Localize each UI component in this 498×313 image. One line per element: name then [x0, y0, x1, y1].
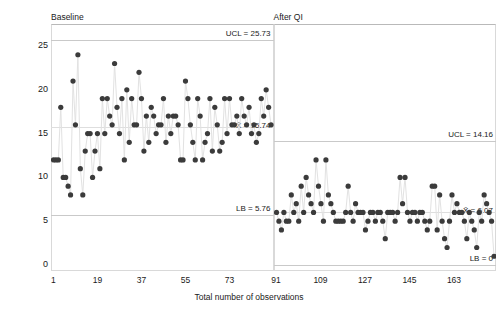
data-point	[491, 254, 496, 259]
data-point	[75, 52, 80, 57]
y-axis-tick: 0	[22, 259, 48, 269]
x-axis-ticks-after_qi: 91109127145163	[274, 275, 497, 289]
x-axis-tick: 109	[313, 275, 327, 285]
data-point	[306, 192, 311, 197]
data-point	[134, 122, 139, 127]
data-point	[112, 61, 117, 66]
data-point	[437, 192, 442, 197]
data-point	[190, 140, 195, 145]
data-point	[404, 210, 409, 215]
data-point	[488, 219, 493, 224]
data-point	[188, 122, 193, 127]
data-point	[441, 236, 446, 241]
data-point	[469, 219, 474, 224]
data-point	[205, 131, 210, 136]
data-point	[97, 166, 102, 171]
data-point	[481, 192, 486, 197]
data-point	[444, 245, 449, 250]
control-chart: Scanner idle time by phase 0510152025 To…	[0, 0, 498, 313]
data-point	[439, 219, 444, 224]
data-point	[486, 210, 491, 215]
data-point	[234, 113, 239, 118]
data-point	[446, 219, 451, 224]
data-point	[227, 96, 232, 101]
data-point	[88, 131, 93, 136]
data-point	[318, 201, 323, 206]
data-point	[298, 184, 303, 189]
x-axis-tick: 55	[181, 275, 190, 285]
data-point	[102, 131, 107, 136]
data-point	[246, 105, 251, 110]
data-point	[127, 140, 132, 145]
data-point	[276, 219, 281, 224]
data-point	[281, 210, 286, 215]
data-point	[66, 184, 71, 189]
data-point	[402, 175, 407, 180]
data-point	[107, 113, 112, 118]
data-point	[365, 219, 370, 224]
data-point	[83, 149, 88, 154]
data-point	[193, 157, 198, 162]
x-axis-ticks-baseline: 119375573	[51, 275, 274, 289]
data-point	[288, 192, 293, 197]
x-axis-tick: 163	[447, 275, 461, 285]
data-point	[476, 210, 481, 215]
data-point	[424, 227, 429, 232]
data-point	[466, 210, 471, 215]
data-point	[158, 122, 163, 127]
data-point	[451, 210, 456, 215]
y-axis-label: Scanner idle time by phase	[0, 0, 12, 28]
data-point	[122, 157, 127, 162]
data-point	[173, 113, 178, 118]
data-point	[166, 113, 171, 118]
x-axis-tick: 91	[271, 275, 280, 285]
data-point	[397, 175, 402, 180]
data-point	[139, 96, 144, 101]
data-point	[370, 210, 375, 215]
data-point	[407, 219, 412, 224]
data-point	[328, 201, 333, 206]
data-point	[224, 131, 229, 136]
panel-strip-label-after_qi: After QI	[274, 12, 303, 22]
panel-strip-label-baseline: Baseline	[51, 12, 84, 22]
data-point	[176, 122, 181, 127]
data-point	[362, 227, 367, 232]
data-point	[352, 201, 357, 206]
data-point	[259, 96, 264, 101]
data-point	[348, 210, 353, 215]
data-point	[195, 96, 200, 101]
data-point	[291, 210, 296, 215]
data-point	[464, 236, 469, 241]
x-axis-tick: 1	[51, 275, 56, 285]
data-point	[414, 219, 419, 224]
x-axis-label: Total number of observations	[0, 292, 498, 302]
data-point	[254, 140, 259, 145]
data-point	[308, 201, 313, 206]
data-point	[390, 210, 395, 215]
data-point	[117, 131, 122, 136]
data-point	[73, 122, 78, 127]
x-axis-tick: 127	[358, 275, 372, 285]
data-point	[382, 236, 387, 241]
data-point	[207, 96, 212, 101]
data-point	[422, 219, 427, 224]
y-axis-tick: 25	[22, 40, 48, 50]
data-point	[251, 122, 256, 127]
data-point	[313, 157, 318, 162]
data-point	[198, 113, 203, 118]
data-point	[315, 184, 320, 189]
data-point	[63, 175, 68, 180]
data-point	[68, 192, 73, 197]
data-point	[202, 140, 207, 145]
data-point	[256, 131, 261, 136]
data-point	[95, 131, 100, 136]
data-point	[330, 210, 335, 215]
data-point	[432, 184, 437, 189]
panel-baseline: BaselineUCL = 25.73X̄ = 15.74LB = 5.76	[51, 24, 274, 271]
y-axis-tick: 10	[22, 171, 48, 181]
x-axis-tick: 73	[225, 275, 234, 285]
data-point	[303, 175, 308, 180]
data-point	[278, 227, 283, 232]
data-point	[183, 78, 188, 83]
data-point	[210, 149, 215, 154]
